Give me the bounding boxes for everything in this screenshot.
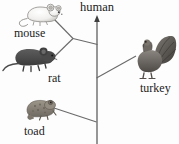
arrow-up-icon (94, 15, 100, 22)
turkey-illustration (130, 33, 178, 80)
rat-illustration (2, 42, 58, 73)
taxon-label-turkey: turkey (140, 82, 171, 94)
taxon-label-mouse: mouse (14, 27, 45, 39)
taxon-label-human: human (80, 1, 114, 13)
mouse-illustration (16, 0, 64, 28)
branch-rodent-to-trunk (73, 39, 98, 45)
trunk-line (94, 15, 100, 144)
taxon-label-toad: toad (24, 125, 45, 137)
taxon-label-rat: rat (48, 72, 61, 84)
toad-illustration (21, 95, 61, 122)
phylogenetic-tree-figure: human mouse rat toad turkey (0, 0, 179, 144)
